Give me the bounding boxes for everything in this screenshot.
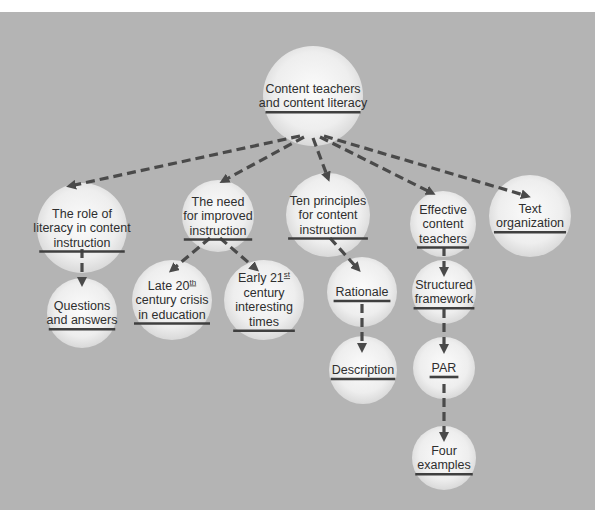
diagram-canvas: Content teachersand content literacyThe … [0, 12, 595, 510]
node-label-line: interesting [235, 300, 293, 314]
node-label-line: The need [192, 195, 245, 209]
node-label-line: times [249, 315, 279, 329]
node-label-line: and content literacy [259, 96, 368, 110]
node-label-line: for improved [183, 209, 253, 223]
node-label-line: content [422, 217, 464, 231]
node-label-line: organization [496, 216, 564, 230]
node-label-line: Content teachers [265, 82, 360, 96]
node-label-line: Description [332, 363, 395, 377]
node-label-line: century crisis [136, 293, 209, 307]
edge-root-to-need [223, 137, 304, 181]
node-label-line: instruction [300, 223, 357, 237]
node-label-line: Questions [54, 299, 110, 313]
node-label-line: Late 20th [148, 278, 196, 293]
node-label-line: Structured [415, 278, 473, 292]
node-label-line: Text [519, 202, 542, 216]
node-label-line: Early 21st [238, 270, 291, 285]
node-label-line: Effective [419, 203, 467, 217]
node-label-line: Four [431, 444, 457, 458]
edge-root-to-role [70, 136, 300, 186]
node-label-line: literacy in content [33, 221, 131, 235]
node-label-line: PAR [432, 361, 457, 375]
node-label-line: for content [298, 208, 358, 222]
node-label-line: framework [415, 292, 474, 306]
node-label-line: instruction [54, 236, 111, 250]
node-label-line: examples [417, 458, 471, 472]
concept-map: Content teachersand content literacyThe … [0, 12, 595, 510]
node-label-line: Ten principles [290, 194, 366, 208]
node-label-line: Rationale [336, 285, 389, 299]
node-label-line: in education [138, 308, 205, 322]
node-label-line: and answers [47, 313, 118, 327]
node-label-line: The role of [52, 207, 112, 221]
node-label-line: century [244, 286, 286, 300]
node-label-line: teachers [419, 232, 467, 246]
node-label-line: instruction [190, 224, 247, 238]
